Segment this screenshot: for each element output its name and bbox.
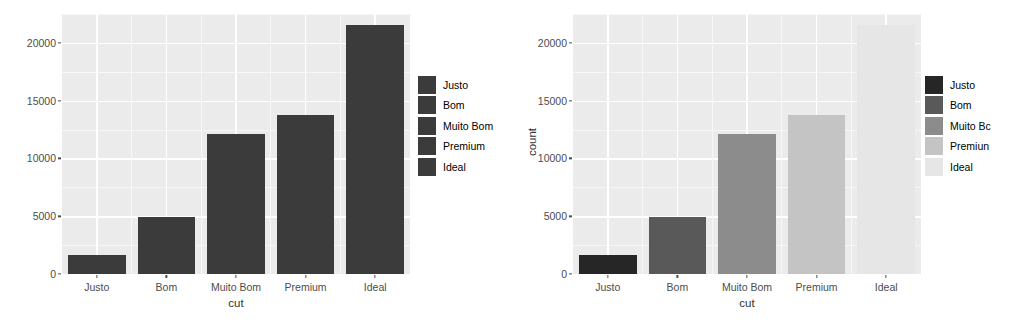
legend-item: Bom — [418, 95, 465, 115]
x-axis-tick-mark — [886, 275, 887, 278]
legend-key-background — [418, 117, 436, 135]
legend-label: Bom — [443, 99, 465, 111]
x-axis-tick-mark — [305, 275, 306, 278]
gridline-vertical — [607, 14, 609, 274]
gridline-vertical-minor — [131, 14, 132, 274]
bar — [68, 255, 126, 274]
x-axis-tick-mark — [816, 275, 817, 278]
legend-color-swatch — [925, 117, 943, 135]
legend-item: Justo — [925, 75, 975, 95]
x-axis-tick-mark — [746, 275, 747, 278]
x-axis-tick-label: Bom — [156, 281, 178, 293]
y-axis-tick-label: 5000 — [544, 210, 567, 222]
x-axis-tick-label: Justo — [595, 281, 620, 293]
legend-key-background — [418, 96, 436, 114]
legend-label: Ideal — [950, 161, 973, 173]
legend-item: Muito Bc — [925, 116, 991, 136]
legend-label: Justo — [950, 79, 975, 91]
y-axis-tick-label: 0 — [50, 268, 56, 280]
x-axis-tick-mark — [96, 275, 97, 278]
legend-color-swatch — [925, 76, 943, 94]
legend-label: Bom — [950, 99, 972, 111]
gridline-vertical-minor — [712, 14, 713, 274]
y-axis-tick-mark — [569, 273, 572, 274]
x-axis-tick-mark — [607, 275, 608, 278]
legend-color-swatch — [418, 117, 436, 135]
bar — [718, 134, 776, 274]
gridline-vertical — [96, 14, 98, 274]
legend-label: Premiun — [950, 140, 989, 152]
legend-key-background — [418, 137, 436, 155]
legend-color-swatch — [925, 96, 943, 114]
y-axis-tick-mark — [58, 158, 61, 159]
legend-item: Justo — [418, 75, 468, 95]
legend-label: Premium — [443, 140, 485, 152]
legend-color-swatch — [418, 76, 436, 94]
x-axis-tick-label: Ideal — [875, 281, 898, 293]
legend-key-background — [925, 76, 943, 94]
legend-color-swatch — [418, 96, 436, 114]
y-axis-tick-mark — [58, 42, 61, 43]
plot-panel-left — [62, 14, 410, 274]
bar — [346, 25, 404, 274]
bar — [207, 134, 265, 274]
y-axis-tick-label: 20000 — [27, 37, 56, 49]
y-axis-tick-label: 15000 — [538, 95, 567, 107]
bar — [857, 25, 915, 274]
legend-key-background — [925, 96, 943, 114]
y-axis-tick-mark — [569, 100, 572, 101]
y-axis-tick-label: 10000 — [538, 152, 567, 164]
gridline-vertical-minor — [270, 14, 271, 274]
legend-right: JustoBomMuito BcPremiunIdeal — [925, 75, 1025, 178]
legend-item: Ideal — [418, 157, 466, 177]
bar-chart-left: 05000100001500020000JustoBomMuito BomPre… — [0, 0, 512, 328]
x-axis-tick-label: Muito Bom — [211, 281, 261, 293]
legend-label: Muito Bc — [950, 120, 991, 132]
y-axis-tick-mark — [569, 216, 572, 217]
gridline-vertical-minor — [851, 14, 852, 274]
y-axis-tick-mark — [569, 42, 572, 43]
bar — [579, 255, 637, 274]
bar-chart-right: 05000100001500020000JustoBomMuito BomPre… — [512, 0, 1025, 328]
x-axis-title: cut — [228, 297, 243, 309]
legend-label: Ideal — [443, 161, 466, 173]
bar — [649, 217, 707, 274]
x-axis-tick-mark — [235, 275, 236, 278]
legend-color-swatch — [925, 158, 943, 176]
x-axis-tick-mark — [375, 275, 376, 278]
legend-key-background — [925, 137, 943, 155]
y-axis-tick-label: 10000 — [27, 152, 56, 164]
legend-item: Premiun — [925, 136, 989, 156]
legend-color-swatch — [418, 158, 436, 176]
legend-left: JustoBomMuito BomPremiumIdeal — [418, 75, 512, 178]
legend-color-swatch — [925, 137, 943, 155]
x-axis-tick-label: Justo — [84, 281, 109, 293]
legend-key-background — [925, 158, 943, 176]
gridline-vertical-minor — [781, 14, 782, 274]
x-axis-tick-label: Premium — [796, 281, 838, 293]
y-axis-tick-label: 0 — [561, 268, 567, 280]
x-axis-tick-label: Muito Bom — [722, 281, 772, 293]
y-axis-tick-mark — [569, 158, 572, 159]
legend-item: Bom — [925, 95, 972, 115]
bar — [788, 115, 846, 274]
y-axis-tick-label: 5000 — [33, 210, 56, 222]
x-axis-tick-mark — [166, 275, 167, 278]
legend-key-background — [418, 158, 436, 176]
legend-color-swatch — [418, 137, 436, 155]
y-axis-title: count — [526, 122, 538, 162]
y-axis-tick-mark — [58, 273, 61, 274]
y-axis-tick-mark — [58, 216, 61, 217]
legend-key-background — [925, 117, 943, 135]
legend-label: Muito Bom — [443, 120, 493, 132]
gridline-vertical-minor — [642, 14, 643, 274]
legend-item: Premium — [418, 136, 485, 156]
y-axis-tick-label: 20000 — [538, 37, 567, 49]
legend-item: Ideal — [925, 157, 973, 177]
y-axis-tick-mark — [58, 100, 61, 101]
legend-item: Muito Bom — [418, 116, 493, 136]
gridline-vertical-minor — [340, 14, 341, 274]
x-axis-title: cut — [739, 297, 754, 309]
legend-key-background — [418, 76, 436, 94]
y-axis-tick-label: 15000 — [27, 95, 56, 107]
